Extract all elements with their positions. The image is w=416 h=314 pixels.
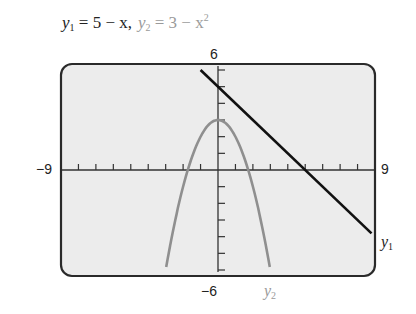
- y1-label-sub: 1: [388, 241, 393, 252]
- ymax-label: 6: [210, 46, 218, 62]
- graph-screen: [0, 0, 416, 314]
- y2-label-sub: 2: [271, 290, 276, 301]
- y1-curve-label: y1: [381, 233, 393, 252]
- y2-curve-label: y2: [264, 282, 276, 301]
- ymin-label: −6: [201, 283, 217, 299]
- xmin-label: −9: [36, 161, 52, 177]
- xmax-label: 9: [381, 161, 389, 177]
